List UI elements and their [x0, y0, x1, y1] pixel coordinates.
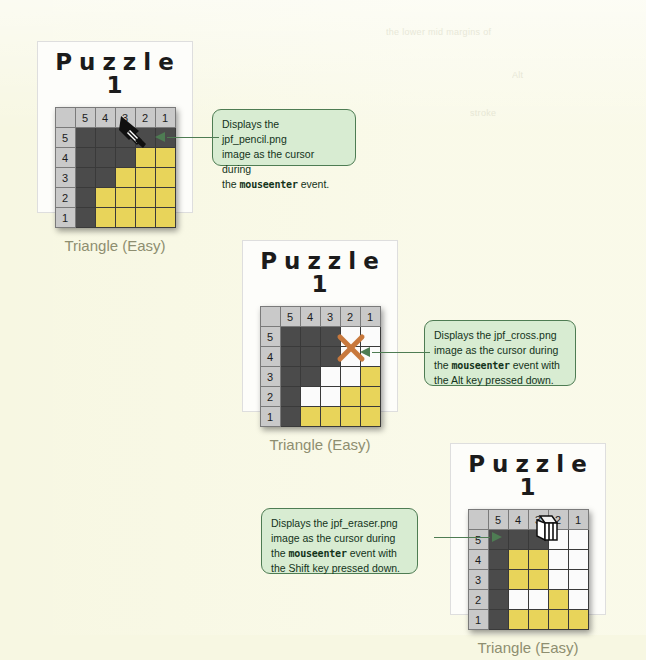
grid-cell-white[interactable] [568, 570, 588, 590]
grid-cell-white[interactable] [340, 347, 360, 367]
grid-col-header: 3 [320, 307, 340, 327]
grid-cell-yellow[interactable] [340, 407, 360, 427]
grid-cell-yellow[interactable] [300, 407, 320, 427]
grid-cell-yellow[interactable] [548, 610, 568, 630]
grid-cell-dark[interactable] [320, 327, 340, 347]
puzzle-grid[interactable]: 5432154321 [468, 509, 589, 630]
grid-cell-yellow[interactable] [95, 188, 115, 208]
grid-cell-yellow[interactable] [568, 610, 588, 630]
grid-cell-dark[interactable] [280, 327, 300, 347]
grid-cell-yellow[interactable] [528, 570, 548, 590]
grid-cell-dark[interactable] [488, 610, 508, 630]
grid-cell-yellow[interactable] [508, 610, 528, 630]
grid-cell-dark[interactable] [95, 148, 115, 168]
grid-cell-white[interactable] [568, 530, 588, 550]
grid-col-header: 2 [548, 510, 568, 530]
grid-cell-yellow[interactable] [508, 570, 528, 590]
grid-row: 5 [468, 530, 588, 550]
grid-cell-yellow[interactable] [155, 208, 175, 228]
grid-header-row: 54321 [468, 510, 588, 530]
grid-cell-dark[interactable] [320, 347, 340, 367]
grid-cell-dark[interactable] [75, 188, 95, 208]
callout-event-name: mouseenter [452, 360, 510, 371]
grid-row-header: 3 [468, 570, 488, 590]
puzzle-title: Puzzle 1 [451, 444, 605, 499]
grid-cell-yellow[interactable] [135, 168, 155, 188]
puzzle-title: Puzzle 1 [243, 241, 397, 296]
grid-cell-dark[interactable] [528, 530, 548, 550]
callout-line-2: image as the cursor during [271, 531, 408, 546]
grid-cell-yellow[interactable] [528, 610, 548, 630]
grid-cell-white[interactable] [548, 570, 568, 590]
grid-cell-dark[interactable] [75, 128, 95, 148]
grid-cell-yellow[interactable] [528, 550, 548, 570]
grid-cell-yellow[interactable] [115, 168, 135, 188]
grid-cell-yellow[interactable] [340, 387, 360, 407]
puzzle-grid[interactable]: 5432154321 [260, 306, 381, 427]
grid-cell-dark[interactable] [115, 148, 135, 168]
grid-cell-yellow[interactable] [155, 148, 175, 168]
grid-cell-white[interactable] [340, 367, 360, 387]
grid-header-row: 54321 [260, 307, 380, 327]
grid-cell-yellow[interactable] [548, 590, 568, 610]
grid-cell-dark[interactable] [280, 347, 300, 367]
grid-cell-dark[interactable] [488, 590, 508, 610]
grid-row: 4 [55, 148, 175, 168]
grid-cell-white[interactable] [300, 387, 320, 407]
grid-col-header: 1 [568, 510, 588, 530]
grid-cell-yellow[interactable] [135, 148, 155, 168]
grid-cell-dark[interactable] [488, 550, 508, 570]
grid-cell-dark[interactable] [95, 128, 115, 148]
puzzle-grid[interactable]: 5432154321 [55, 107, 176, 228]
grid-cell-yellow[interactable] [95, 208, 115, 228]
grid-cell-white[interactable] [568, 550, 588, 570]
grid-cell-yellow[interactable] [360, 367, 380, 387]
grid-cell-yellow[interactable] [360, 407, 380, 427]
grid-cell-white[interactable] [508, 590, 528, 610]
grid-cell-yellow[interactable] [135, 208, 155, 228]
grid-cell-dark[interactable] [135, 128, 155, 148]
grid-cell-dark[interactable] [280, 367, 300, 387]
grid-cell-white[interactable] [320, 367, 340, 387]
grid-row: 3 [468, 570, 588, 590]
grid-cell-yellow[interactable] [508, 550, 528, 570]
grid-row-header: 1 [468, 610, 488, 630]
grid-cell-white[interactable] [548, 530, 568, 550]
grid-cell-yellow[interactable] [135, 188, 155, 208]
grid-cell-dark[interactable] [75, 168, 95, 188]
grid-row-header: 2 [468, 590, 488, 610]
callout-line-1: Displays the jpf_pencil.png [222, 117, 346, 147]
grid-cell-white[interactable] [568, 590, 588, 610]
callout-pencil: Displays the jpf_pencil.png image as the… [212, 109, 356, 166]
grid-cell-dark[interactable] [508, 530, 528, 550]
grid-cell-yellow[interactable] [155, 188, 175, 208]
grid-cell-dark[interactable] [300, 347, 320, 367]
puzzle-card-3: Puzzle 1 5432154321 Triangle (Easy) [450, 443, 606, 615]
grid-cell-yellow[interactable] [320, 407, 340, 427]
grid-col-header: 5 [488, 510, 508, 530]
grid-header-row: 54321 [55, 108, 175, 128]
grid-cell-dark[interactable] [115, 128, 135, 148]
grid-cell-white[interactable] [360, 327, 380, 347]
grid-cell-yellow[interactable] [115, 188, 135, 208]
grid-cell-white[interactable] [320, 387, 340, 407]
grid-cell-white[interactable] [528, 590, 548, 610]
grid-col-header: 4 [300, 307, 320, 327]
grid-cell-yellow[interactable] [115, 208, 135, 228]
grid-cell-white[interactable] [548, 550, 568, 570]
grid-cell-yellow[interactable] [155, 168, 175, 188]
grid-cell-white[interactable] [340, 327, 360, 347]
grid-row-header: 5 [468, 530, 488, 550]
grid-cell-dark[interactable] [488, 570, 508, 590]
grid-cell-dark[interactable] [300, 367, 320, 387]
grid-cell-dark[interactable] [280, 407, 300, 427]
grid-cell-dark[interactable] [95, 168, 115, 188]
grid-cell-dark[interactable] [300, 327, 320, 347]
grid-cell-dark[interactable] [75, 208, 95, 228]
grid-row-header: 5 [55, 128, 75, 148]
callout-line-1: Displays the jpf_cross.png [434, 328, 566, 343]
grid-cell-dark[interactable] [75, 148, 95, 168]
grid-cell-yellow[interactable] [360, 387, 380, 407]
grid-cell-dark[interactable] [280, 387, 300, 407]
callout-line-3-pre: the [434, 359, 452, 371]
